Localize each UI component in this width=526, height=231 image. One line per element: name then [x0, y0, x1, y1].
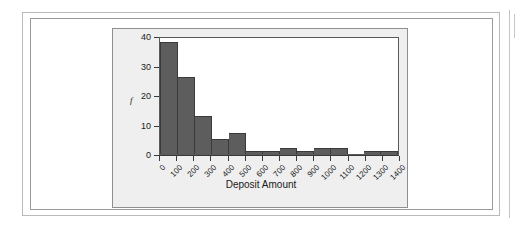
- y-axis-tick-label: 10: [141, 121, 151, 131]
- histogram-figure-panel: f 010203040 0100200300400500600700800900…: [112, 28, 408, 208]
- histogram-bar: [314, 148, 331, 154]
- histogram-bar: [381, 151, 398, 154]
- x-axis-tick: [262, 156, 263, 161]
- x-axis-tick: [399, 156, 400, 161]
- y-axis-tick-label: 20: [141, 91, 151, 101]
- y-axis-tick-label: 30: [141, 62, 151, 72]
- x-axis-tick-label: 300: [203, 163, 219, 179]
- histogram-bar: [280, 148, 297, 154]
- page-edge-rule: [509, 10, 510, 218]
- x-axis-tick-label: 0: [158, 163, 168, 173]
- x-axis-tick: [348, 156, 349, 161]
- x-axis-tick-label: 100: [169, 163, 185, 179]
- screenshot-root: f 010203040 0100200300400500600700800900…: [0, 0, 526, 231]
- histogram-bar: [212, 139, 229, 154]
- plot-area: [159, 37, 399, 155]
- x-axis-tick-label: 400: [220, 163, 236, 179]
- histogram-bar: [178, 77, 195, 154]
- x-axis-tick: [245, 156, 246, 161]
- histogram-bar: [160, 42, 178, 154]
- y-axis-title: f: [130, 95, 133, 105]
- x-axis-tick: [176, 156, 177, 161]
- y-axis-tick-label: 0: [146, 150, 151, 160]
- histogram-bar: [229, 133, 246, 154]
- histogram-bar: [297, 151, 314, 154]
- histogram-bar: [246, 151, 263, 154]
- x-axis-tick-label: 800: [289, 163, 305, 179]
- x-axis-tick: [313, 156, 314, 161]
- x-axis-tick: [330, 156, 331, 161]
- x-axis-tick: [279, 156, 280, 161]
- histogram-bar: [195, 116, 212, 154]
- x-axis-tick: [210, 156, 211, 161]
- x-axis-tick: [382, 156, 383, 161]
- x-axis: 0100200300400500600700800900100011001200…: [159, 155, 399, 156]
- page-edge-rule-secondary: [514, 14, 515, 38]
- x-axis-tick-label: 900: [306, 163, 322, 179]
- x-axis-tick-label: 600: [254, 163, 270, 179]
- y-axis-tick-label: 40: [141, 32, 151, 42]
- x-axis-tick: [296, 156, 297, 161]
- x-axis-tick: [193, 156, 194, 161]
- x-axis-title: Deposit Amount: [113, 179, 409, 190]
- x-axis-tick-label: 200: [186, 163, 202, 179]
- x-axis-tick-label: 500: [237, 163, 253, 179]
- histogram-bar: [263, 151, 280, 154]
- x-axis-tick: [365, 156, 366, 161]
- histogram-bars: [160, 38, 398, 154]
- x-axis-tick: [228, 156, 229, 161]
- histogram-bar: [331, 148, 348, 154]
- histogram-bar: [364, 151, 381, 154]
- x-axis-tick: [159, 156, 160, 161]
- x-axis-tick-label: 700: [272, 163, 288, 179]
